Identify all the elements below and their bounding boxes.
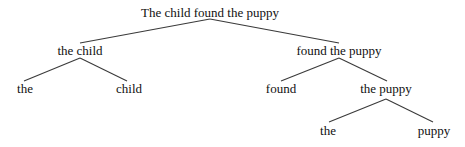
subject-noun-node: child [116, 82, 142, 96]
edge-root-to-np-subject [80, 19, 210, 43]
edge-root-to-vp [210, 19, 339, 43]
edge-vp-to-verb [281, 58, 339, 81]
object-noun-node: puppy [418, 124, 451, 138]
edge-np-object-to-det [329, 99, 386, 122]
object-np-node: the puppy [360, 82, 412, 96]
vp-node: found the puppy [296, 44, 381, 58]
verb-node: found [266, 82, 296, 96]
tree-edges [0, 0, 465, 147]
object-determiner-node: the [320, 124, 336, 138]
root-node: The child found the puppy [141, 6, 279, 20]
subject-determiner-node: the [17, 82, 33, 96]
edge-np-object-to-noun [386, 99, 433, 122]
edge-np-subject-to-det [24, 58, 80, 81]
edge-np-subject-to-noun [80, 58, 127, 81]
parse-tree-diagram: The child found the puppy the child foun… [0, 0, 465, 147]
subject-np-node: the child [57, 44, 102, 58]
edge-vp-to-np-object [339, 58, 387, 81]
